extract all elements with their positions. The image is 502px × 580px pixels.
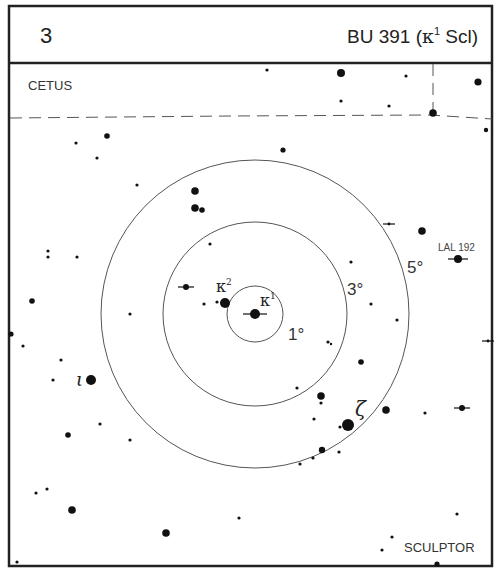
- star-icon: [337, 450, 340, 453]
- star-chart: 3 BU 391 (κ1 Scl) CETUS SCULPTOR 1° 3° 5…: [0, 0, 502, 580]
- star-icon: [59, 358, 62, 361]
- star-icon: [474, 78, 481, 85]
- star-icon: [29, 298, 35, 304]
- star-icon: [46, 255, 49, 258]
- star-icon: [395, 318, 398, 321]
- star-icon: [95, 156, 98, 159]
- constellation-label-cetus: CETUS: [28, 78, 72, 93]
- star-icon: [75, 255, 78, 258]
- star-icon: [21, 344, 24, 347]
- star-icon: [98, 422, 101, 425]
- ring-label-3deg: 3°: [347, 280, 363, 299]
- star-icon: [128, 312, 131, 315]
- star-icon: [311, 456, 314, 459]
- star-icon: [382, 406, 390, 414]
- star-icon: [191, 204, 199, 212]
- star-icon: [429, 109, 437, 117]
- star-icon: [387, 104, 390, 107]
- star-icon: [183, 284, 189, 290]
- star-icon: [317, 392, 325, 400]
- star-icon: [208, 242, 211, 245]
- ring-label-1deg: 1°: [288, 325, 304, 344]
- star-icon: [74, 141, 77, 144]
- star-icon: [330, 343, 332, 345]
- star-icon: [15, 560, 18, 563]
- star-icon: [45, 487, 48, 490]
- label-lal192: LAL 192: [438, 242, 475, 253]
- star-icon: [337, 69, 345, 77]
- star-icon: [215, 300, 218, 303]
- star-icon: [338, 425, 341, 428]
- star-icon: [104, 133, 110, 139]
- star-icon: [65, 432, 71, 438]
- star-icon: [459, 405, 465, 411]
- star-kappa2-icon: [220, 298, 230, 308]
- star-icon: [191, 187, 199, 195]
- star-icon: [319, 447, 325, 453]
- star-icon: [455, 512, 458, 515]
- star-icon: [34, 491, 37, 494]
- star-icon: [298, 462, 301, 465]
- label-zeta: ζ: [355, 397, 367, 421]
- star-icon: [434, 561, 439, 566]
- star-icon: [295, 386, 298, 389]
- star-icon: [339, 99, 342, 102]
- star-icon: [390, 535, 393, 538]
- star-icon: [380, 548, 383, 551]
- star-icon: [51, 378, 54, 381]
- star-zeta-icon: [342, 419, 354, 431]
- star-icon: [312, 417, 315, 420]
- star-iota-icon: [86, 375, 96, 385]
- star-icon: [162, 529, 170, 537]
- star-icon: [8, 331, 13, 336]
- star-icon: [484, 128, 488, 132]
- star-icon: [388, 223, 391, 226]
- label-iota: ι: [76, 369, 83, 390]
- star-icon: [202, 302, 205, 305]
- star-icon: [369, 302, 372, 305]
- chart-title: BU 391 (κ1 Scl): [347, 25, 478, 47]
- star-icon: [199, 207, 205, 213]
- star-icon: [418, 227, 426, 235]
- star-icon: [487, 340, 490, 343]
- star-icon: [46, 249, 49, 252]
- star-icon: [135, 183, 138, 186]
- constellation-label-sculptor: SCULPTOR: [404, 540, 475, 555]
- star-icon: [68, 506, 76, 514]
- star-icon: [237, 516, 240, 519]
- star-icon: [280, 147, 285, 152]
- star-icon: [404, 74, 407, 77]
- star-icon: [358, 359, 364, 365]
- star-icon: [319, 401, 322, 404]
- star-icon: [423, 411, 426, 414]
- star-icon: [326, 340, 329, 343]
- ring-label-5deg: 5°: [407, 258, 423, 277]
- star-icon: [265, 68, 268, 71]
- star-icon: [349, 260, 352, 263]
- star-icon: [128, 438, 131, 441]
- chart-number: 3: [40, 23, 52, 48]
